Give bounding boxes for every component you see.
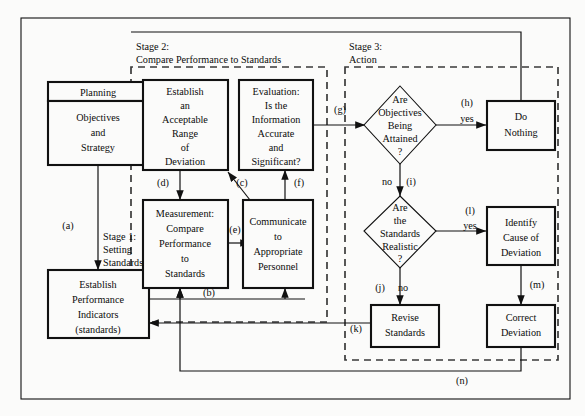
measurement-line-1: Measurement: [156,208,214,219]
stage3-title-line-2: Action [349,54,377,65]
evaluation-line-3: Information [252,114,301,125]
standards-line-5: ? [398,253,403,264]
establish-indicators-line-2: Performance [72,294,125,305]
stage2-title-line-1: Stage 2: [136,41,169,52]
branch-label-i-no: no [382,176,392,187]
planning-header: Planning [80,87,116,98]
acceptable-range-line-5: of [181,142,190,153]
evaluation-line-2: Is the [265,100,288,111]
identify-cause-line-1: Identify [505,217,538,228]
flowchart-canvas: Planning Objectives and Strategy Establi… [0,0,585,416]
identify-cause-line-2: Cause of [503,232,540,243]
planning-line-1: Objectives [76,112,120,123]
stage1-title-line-1: Stage 1: [103,231,136,242]
evaluation-line-4: Accurate [258,128,295,139]
objectives-line-3: Being [388,120,412,131]
branch-label-j-no: no [398,282,408,293]
do-nothing-line-2: Nothing [504,127,537,138]
box-acceptable-range: Establish an Acceptable Range of Deviati… [143,80,228,170]
edge-label-e: (e) [229,224,240,236]
box-do-nothing: Do Nothing [487,101,555,150]
edge-label-k: (k) [350,323,362,335]
measurement-line-2: Compare [166,223,204,234]
branch-label-h-yes: yes [460,113,474,124]
communicate-line-4: Personnel [258,261,298,272]
revise-standards-line-1: Revise [391,312,419,323]
box-communicate: Communicate to Appropriate Personnel [243,200,313,288]
communicate-line-3: Appropriate [253,246,303,257]
objectives-line-1: Are [392,94,408,105]
box-establish-performance-indicators: Establish Performance Indicators (standa… [48,270,149,338]
box-measurement: Measurement: Compare Performance to Stan… [143,200,228,288]
objectives-line-2: Objectives [378,107,422,118]
stage3-title-line-1: Stage 3: [349,41,382,52]
communicate-line-2: to [274,231,282,242]
evaluation-line-1: Evaluation: [253,86,300,97]
evaluation-line-5: and [269,142,284,153]
standards-line-2: the [394,215,407,226]
edge-label-h: (h) [461,97,473,109]
edge-label-g: (g) [334,104,346,116]
planning-line-2: and [91,127,106,138]
correct-deviation-line-1: Correct [506,312,537,323]
measurement-line-4: to [181,253,189,264]
edge-label-j: (j) [375,282,385,294]
measurement-line-5: Standards [165,268,205,279]
acceptable-range-line-4: Range [172,128,199,139]
acceptable-range-line-1: Establish [166,86,203,97]
acceptable-range-line-3: Acceptable [162,114,208,125]
edge-label-d: (d) [157,177,169,189]
establish-indicators-line-1: Establish [79,279,116,290]
flowchart-figure: Planning Objectives and Strategy Establi… [0,0,585,416]
planning-line-3: Strategy [81,142,116,153]
box-evaluation: Evaluation: Is the Information Accurate … [239,80,313,170]
box-planning: Planning Objectives and Strategy [48,82,148,165]
branch-label-l-yes: yes [463,220,477,231]
objectives-line-4: Attained [382,133,417,144]
establish-indicators-line-4: (standards) [75,324,120,336]
standards-line-3: Standards [380,228,420,239]
edge-label-c: (c) [236,177,247,189]
revise-standards-line-2: Standards [385,327,425,338]
communicate-line-1: Communicate [249,216,307,227]
edge-label-m: (m) [530,279,545,291]
box-identify-cause: Identify Cause of Deviation [487,207,555,265]
stage2-title-line-2: Compare Performance to Standards [136,54,281,65]
evaluation-line-6: Significant? [251,156,301,167]
standards-line-1: Are [392,202,408,213]
box-correct-deviation: Correct Deviation [487,305,555,347]
standards-line-4: Realistic [382,241,418,252]
edge-label-f: (f) [294,177,304,189]
measurement-line-3: Performance [159,238,212,249]
edge-label-l: (l) [465,205,475,217]
identify-cause-line-3: Deviation [501,247,541,258]
acceptable-range-line-2: an [180,100,190,111]
stage1-title-line-2: Setting [103,244,132,255]
acceptable-range-line-6: Deviation [165,156,205,167]
edge-label-i: (i) [406,176,416,188]
do-nothing-line-1: Do [515,111,527,122]
stage1-title-line-3: Standards [103,257,143,268]
establish-indicators-line-3: Indicators [78,309,119,320]
edge-label-n: (n) [456,375,468,387]
edge-label-b: (b) [203,287,215,299]
correct-deviation-line-2: Deviation [501,327,541,338]
box-revise-standards: Revise Standards [371,305,439,347]
objectives-line-5: ? [398,146,403,157]
edge-label-a: (a) [62,220,73,232]
